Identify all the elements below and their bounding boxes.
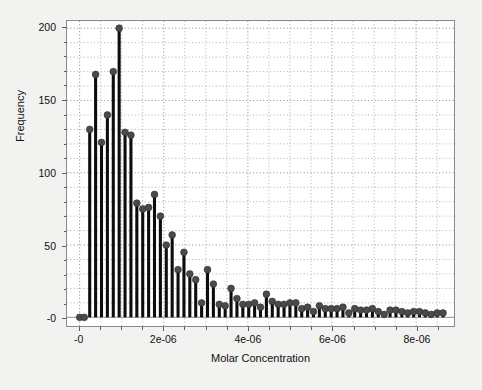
x-tick — [396, 327, 397, 330]
x-tick — [290, 327, 291, 330]
y-tick — [64, 56, 67, 57]
x-axis-title: Molar Concentration — [66, 352, 455, 364]
chart-figure: -02e-064e-066e-068e-06 -050100150200 Mol… — [0, 0, 482, 390]
y-tick — [64, 85, 67, 86]
x-tick-label: 6e-06 — [319, 333, 346, 345]
x-tick — [375, 327, 376, 330]
y-tick — [64, 115, 67, 116]
x-tick — [269, 327, 270, 330]
x-tick-label: 8e-06 — [404, 333, 431, 345]
x-tick-label: 2e-06 — [150, 333, 177, 345]
y-tick-label: 50 — [0, 240, 56, 252]
y-tick — [64, 304, 67, 305]
y-tick — [62, 100, 66, 101]
x-tick — [163, 327, 164, 331]
y-tick — [64, 202, 67, 203]
x-tick-label: 4e-06 — [234, 333, 261, 345]
y-tick-label: 150 — [0, 94, 56, 106]
y-tick — [64, 144, 67, 145]
x-tick — [311, 327, 312, 330]
x-tick — [142, 327, 143, 330]
y-tick — [64, 216, 67, 217]
y-tick — [64, 158, 67, 159]
plot-area — [66, 20, 455, 327]
y-tick-label: 100 — [0, 167, 56, 179]
x-tick — [79, 327, 80, 331]
x-tick — [248, 327, 249, 331]
x-tick — [354, 327, 355, 330]
x-tick — [184, 327, 185, 330]
y-tick — [64, 187, 67, 188]
y-tick — [62, 173, 66, 174]
y-tick-label: 200 — [0, 21, 56, 33]
x-tick — [332, 327, 333, 331]
y-tick-label: -0 — [0, 312, 56, 324]
y-tick — [64, 71, 67, 72]
x-tick — [206, 327, 207, 330]
y-axis-title: Frequency — [14, 26, 26, 206]
y-tick — [64, 260, 67, 261]
x-tick — [417, 327, 418, 331]
y-tick — [62, 318, 66, 319]
y-tick — [64, 129, 67, 130]
y-tick — [64, 289, 67, 290]
y-tick — [64, 42, 67, 43]
y-tick — [62, 27, 66, 28]
x-tick-label: -0 — [74, 333, 83, 345]
stem-series — [67, 21, 454, 326]
y-tick — [64, 275, 67, 276]
x-tick — [121, 327, 122, 330]
x-tick — [438, 327, 439, 330]
y-tick — [64, 231, 67, 232]
y-tick — [62, 246, 66, 247]
x-tick — [100, 327, 101, 330]
x-tick — [227, 327, 228, 330]
